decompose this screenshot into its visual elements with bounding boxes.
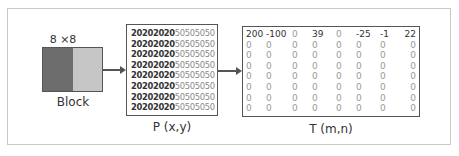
transform-coefficient: 0 [380,61,402,72]
pixel-values-dark: 20202020 [131,28,175,38]
transform-coefficient: 0 [380,103,402,114]
transform-matrix-row: 00000000 [246,71,416,82]
pixel-matrix-label: P (x,y) [140,120,204,134]
transform-matrix-row: 00000000 [246,40,416,51]
transform-coefficient: 0 [266,93,292,104]
transform-coefficient: 0 [380,82,402,93]
transform-coefficient: 0 [292,71,312,82]
transform-coefficient: 0 [292,29,312,40]
block-size-label: 8 ×8 [38,33,88,46]
pixel-values-dark: 20202020 [131,70,175,80]
block-light-half [73,48,103,91]
transform-coefficient: 0 [266,61,292,72]
transform-coefficient: 0 [292,103,312,114]
transform-coefficient: 0 [246,82,266,93]
pixel-values-light: 50505050 [175,81,215,91]
transform-coefficient: 0 [402,82,416,93]
transform-coefficient: 0 [356,103,380,114]
transform-coefficient: 0 [356,93,380,104]
transform-coefficient: 0 [336,82,356,93]
pixel-matrix-row: 2020202050505050 [131,28,217,39]
transform-coefficient: 0 [336,93,356,104]
transform-coefficient: 0 [266,50,292,61]
block-dark-half [43,48,73,91]
transform-coefficient: 0 [380,71,402,82]
transform-coefficient: -25 [356,29,380,40]
transform-coefficient: 0 [312,40,336,51]
transform-coefficient: 0 [292,61,312,72]
transform-coefficient: 0 [336,61,356,72]
transform-coefficient: 200 [246,29,266,40]
pixel-values-light: 50505050 [175,39,215,49]
transform-coefficient: 0 [402,50,416,61]
pixel-values-dark: 20202020 [131,92,175,102]
transform-coefficient: 22 [402,29,416,40]
pixel-matrix-row: 2020202050505050 [131,39,217,50]
arrow-right-icon [218,70,240,72]
transform-coefficient: 0 [266,82,292,93]
transform-coefficient: 0 [336,40,356,51]
transform-coefficient: 0 [336,71,356,82]
transform-matrix-row: 00000000 [246,50,416,61]
transform-coefficient: 0 [246,61,266,72]
transform-matrix-row: 00000000 [246,82,416,93]
arrow-right-icon [103,69,124,71]
transform-coefficient: 0 [380,50,402,61]
transform-coefficient: 0 [356,50,380,61]
transform-coefficient: 0 [356,40,380,51]
transform-coefficient: 0 [402,40,416,51]
pixel-matrix-row: 2020202050505050 [131,60,217,71]
pixel-values-dark: 20202020 [131,49,175,59]
transform-coefficient: 0 [312,93,336,104]
transform-coefficient: 0 [246,50,266,61]
transform-matrix: 200-1000390-25-1220000000000000000000000… [242,26,420,117]
transform-coefficient: -1 [380,29,402,40]
pixel-values-dark: 20202020 [131,60,175,70]
pixel-matrix-row: 2020202050505050 [131,70,217,81]
pixel-values-light: 50505050 [175,28,215,38]
pixel-values-dark: 20202020 [131,81,175,91]
transform-coefficient: 0 [380,93,402,104]
pixel-matrix-row: 2020202050505050 [131,81,217,92]
transform-coefficient: 0 [246,103,266,114]
transform-coefficient: 0 [292,82,312,93]
pixel-matrix-row: 2020202050505050 [131,49,217,60]
pixel-values-light: 50505050 [175,70,215,80]
transform-coefficient: 0 [312,82,336,93]
transform-coefficient: 0 [266,40,292,51]
transform-coefficient: 0 [402,103,416,114]
transform-coefficient: 0 [402,71,416,82]
transform-coefficient: 0 [402,93,416,104]
pixel-values-dark: 20202020 [131,102,175,112]
transform-coefficient: 0 [336,103,356,114]
transform-matrix-row: 00000000 [246,103,416,114]
transform-coefficient: 0 [292,93,312,104]
transform-coefficient: 0 [312,50,336,61]
pixel-matrix-row: 2020202050505050 [131,102,217,113]
transform-coefficient: 0 [266,103,292,114]
image-block [42,47,103,92]
transform-coefficient: -100 [266,29,292,40]
transform-coefficient: 0 [246,40,266,51]
transform-coefficient: 0 [356,61,380,72]
transform-coefficient: 0 [292,40,312,51]
transform-coefficient: 0 [356,82,380,93]
pixel-values-dark: 20202020 [131,39,175,49]
transform-coefficient: 39 [312,29,336,40]
transform-coefficient: 0 [356,71,380,82]
transform-coefficient: 0 [312,103,336,114]
transform-coefficient: 0 [292,50,312,61]
transform-coefficient: 0 [266,71,292,82]
transform-matrix-row: 00000000 [246,61,416,72]
transform-coefficient: 0 [246,93,266,104]
transform-coefficient: 0 [246,71,266,82]
transform-matrix-row: 200-1000390-25-122 [246,29,416,40]
pixel-values-light: 50505050 [175,92,215,102]
transform-coefficient: 0 [380,40,402,51]
pixel-values-light: 50505050 [175,49,215,59]
pixel-values-light: 50505050 [175,60,215,70]
transform-matrix-label: T (m,n) [296,122,366,136]
pixel-matrix: 2020202050505050202020205050505020202020… [126,24,218,116]
block-label: Block [38,95,108,109]
transform-coefficient: 0 [312,71,336,82]
